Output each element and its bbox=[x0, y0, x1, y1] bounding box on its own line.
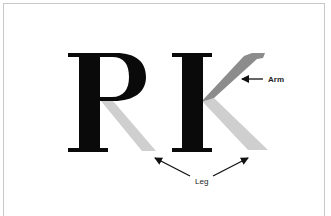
k-stem bbox=[182, 54, 203, 151]
leg-arrow-right-icon bbox=[213, 158, 248, 176]
k-arm-highlight bbox=[201, 53, 265, 102]
leg-annotation: Leg bbox=[155, 158, 248, 186]
k-bottom-serif bbox=[172, 148, 212, 152]
leg-arrow-left-icon bbox=[155, 158, 190, 176]
r-stem bbox=[79, 54, 100, 151]
r-leg-highlight bbox=[101, 101, 156, 151]
leg-label: Leg bbox=[195, 177, 208, 186]
k-leg-highlight bbox=[201, 98, 268, 150]
letter-k bbox=[172, 53, 268, 152]
r-top-serif bbox=[68, 53, 102, 57]
r-bottom-serif bbox=[68, 148, 108, 152]
k-top-serif bbox=[172, 53, 212, 57]
letter-anatomy-diagram: Arm Leg bbox=[0, 0, 331, 216]
letter-r bbox=[68, 53, 156, 152]
r-bowl bbox=[98, 53, 146, 101]
arm-label: Arm bbox=[268, 75, 284, 84]
arm-annotation: Arm bbox=[242, 75, 284, 84]
